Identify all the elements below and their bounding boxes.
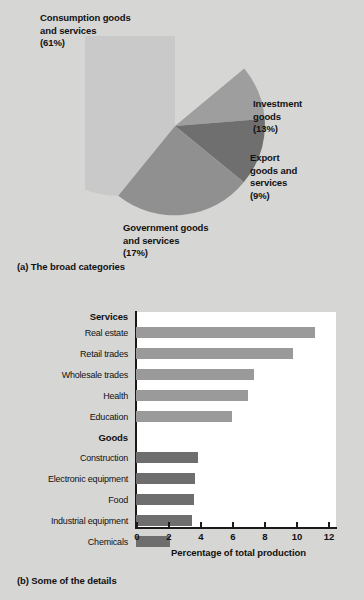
x-tick-6 — [232, 522, 234, 528]
bar-label-real-estate: Real estate — [0, 328, 128, 338]
pie-label-government-line1: Government goods — [123, 222, 283, 235]
x-tick-4 — [200, 522, 202, 528]
pie-label-consumption-line2: and services — [40, 25, 190, 38]
bar-health — [136, 390, 248, 401]
x-tick-8 — [264, 522, 266, 528]
x-tick-label-6: 6 — [230, 531, 235, 542]
group-header-services: Services — [0, 311, 128, 322]
pie-label-consumption-line1: Consumption goods — [40, 12, 190, 25]
pie-label-government-line2: and services — [123, 235, 283, 248]
x-tick-label-12: 12 — [324, 531, 335, 542]
panel-b-caption: (b) Some of the details — [17, 575, 117, 586]
figure-page: Consumption goods and services (61%) Inv… — [0, 0, 364, 600]
pie-label-government: Government goods and services (17%) — [123, 222, 283, 260]
panel-b-bar-chart: Services Real estate Retail trades Whole… — [0, 300, 364, 600]
pie-label-export-line2: goods and — [250, 165, 350, 178]
pie-label-export-line1: Export — [250, 152, 350, 165]
bar-electronic-equipment — [136, 473, 195, 484]
x-tick-label-2: 2 — [166, 531, 171, 542]
x-tick-10 — [296, 522, 298, 528]
panel-a-caption: (a) The broad categories — [17, 261, 125, 272]
x-tick-label-0: 0 — [134, 531, 139, 542]
pie-label-investment: Investment goods (13%) — [253, 98, 353, 136]
x-tick-label-8: 8 — [262, 531, 267, 542]
bar-label-chemicals: Chemicals — [0, 537, 128, 547]
pie-label-consumption-line3: (61%) — [40, 37, 190, 50]
bar-chemicals — [136, 536, 170, 547]
x-tick-0 — [136, 522, 138, 528]
pie-label-consumption: Consumption goods and services (61%) — [40, 12, 190, 50]
x-tick-2 — [168, 522, 170, 528]
pie-label-investment-line3: (13%) — [253, 123, 353, 136]
bar-label-electronic-equipment: Electronic equipment — [0, 474, 128, 484]
pie-label-investment-line2: goods — [253, 111, 353, 124]
pie-chart — [85, 36, 265, 216]
bar-label-education: Education — [0, 412, 128, 422]
bar-wholesale-trades — [136, 369, 254, 380]
bar-education — [136, 411, 232, 422]
bar-label-wholesale-trades: Wholesale trades — [0, 370, 128, 380]
bar-label-food: Food — [0, 495, 128, 505]
pie-slice-investment — [175, 68, 265, 126]
bar-real-estate — [136, 327, 315, 338]
pie-label-export: Export goods and services (9%) — [250, 152, 350, 202]
x-axis-title: Percentage of total production — [136, 547, 341, 558]
bar-label-construction: Construction — [0, 453, 128, 463]
group-header-goods: Goods — [0, 432, 128, 443]
bar-construction — [136, 452, 198, 463]
pie-svg — [85, 36, 265, 216]
bar-label-health: Health — [0, 391, 128, 401]
x-axis-line — [135, 527, 337, 529]
x-tick-label-4: 4 — [198, 531, 203, 542]
x-tick-label-10: 10 — [292, 531, 303, 542]
bar-industrial-equipment — [136, 515, 192, 526]
panel-a-pie-chart: Consumption goods and services (61%) Inv… — [0, 0, 364, 283]
x-tick-12 — [328, 522, 330, 528]
pie-label-export-line3: services — [250, 177, 350, 190]
bar-label-industrial-equipment: Industrial equipment — [0, 516, 128, 526]
bar-food — [136, 494, 194, 505]
pie-label-government-line3: (17%) — [123, 247, 283, 260]
pie-label-export-line4: (9%) — [250, 190, 350, 203]
pie-label-investment-line1: Investment — [253, 98, 353, 111]
bar-label-retail-trades: Retail trades — [0, 349, 128, 359]
bar-retail-trades — [136, 348, 293, 359]
